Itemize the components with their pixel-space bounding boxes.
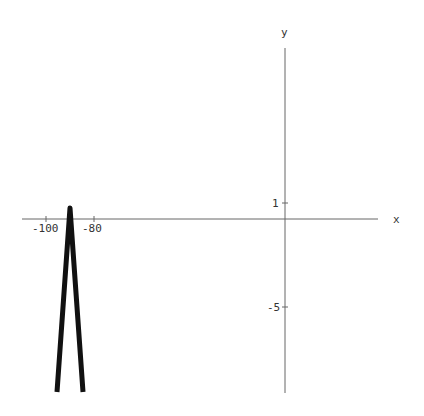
y-axis-label: y <box>281 26 288 39</box>
x-axis-label: x <box>393 213 400 226</box>
x-tick-label-neg80: -80 <box>82 222 102 235</box>
plot-canvas: -100 -80 1 -5 x y <box>0 0 424 416</box>
curve-series <box>57 208 83 392</box>
x-tick-label-neg100: -100 <box>32 222 59 235</box>
y-tick-label-1: 1 <box>272 197 279 210</box>
y-tick-label-neg5: -5 <box>267 301 280 314</box>
